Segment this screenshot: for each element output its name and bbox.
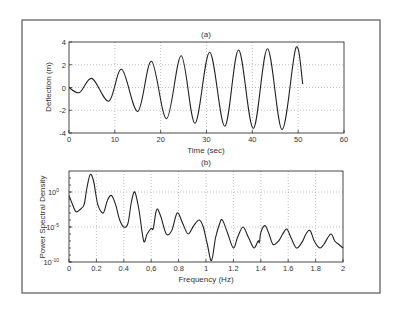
x-tick-label: 1.2: [228, 264, 238, 273]
x-tick-label: 2: [341, 264, 345, 273]
figure: 0102030405060-4-2024 (a) Time (sec) Defl…: [0, 0, 401, 312]
psd-curve: [69, 174, 343, 260]
x-tick-label: 60: [340, 135, 348, 144]
y-tick-label: 10-5: [46, 222, 59, 232]
deflection-curve: [69, 47, 303, 130]
panel-b-psd: 00.20.40,60.811.21.41.61.8210-1010-5100 …: [38, 158, 345, 284]
x-tick-label: 0: [67, 264, 71, 273]
y-tick-label: 2: [62, 61, 66, 70]
y-tick-label: -2: [59, 106, 66, 115]
panel-b-grid: [69, 171, 343, 262]
x-tick-label: 1.8: [310, 264, 320, 273]
x-tick-label: 0.2: [91, 264, 101, 273]
y-tick-label: 0: [62, 84, 66, 93]
x-tick-label: 30: [202, 135, 210, 144]
panel-a-ylabel: Deflection (m): [44, 62, 53, 112]
x-tick-label: 0.4: [119, 264, 129, 273]
x-tick-label: 0,6: [146, 264, 156, 273]
y-tick-label: 100: [48, 187, 59, 197]
x-tick-label: 0.8: [173, 264, 183, 273]
panel-a-time-series: 0102030405060-4-2024 (a) Time (sec) Defl…: [44, 30, 348, 155]
y-tick-label: -4: [59, 129, 66, 138]
panel-b-ylabel: Power Spectral Density: [38, 175, 47, 258]
panel-b-xlabel: Frequency (Hz): [178, 275, 233, 284]
panel-a-ticks: 0102030405060-4-2024: [59, 38, 348, 144]
panel-a-xlabel: Time (sec): [187, 146, 225, 155]
x-tick-label: 1.6: [283, 264, 293, 273]
x-tick-label: 50: [294, 135, 302, 144]
panel-b-title: (b): [201, 158, 211, 167]
x-tick-label: 1: [204, 264, 208, 273]
x-tick-label: 0: [67, 135, 71, 144]
y-tick-label: 4: [62, 38, 66, 47]
x-tick-label: 40: [248, 135, 256, 144]
panel-a-grid: [69, 42, 344, 133]
figure-frame: [22, 20, 380, 293]
x-tick-label: 1.4: [256, 264, 266, 273]
x-tick-label: 10: [111, 135, 119, 144]
panel-a-title: (a): [201, 30, 211, 39]
x-tick-label: 20: [156, 135, 164, 144]
